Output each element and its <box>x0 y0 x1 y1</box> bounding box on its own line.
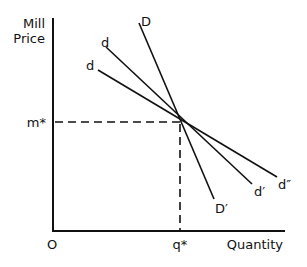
curve-d-upper <box>106 47 252 184</box>
curve-D <box>139 23 214 199</box>
x-axis-label: Quantity <box>227 237 283 252</box>
curve-d-upper-end-label: d′ <box>254 184 265 199</box>
curve-d-lower-start-label: d <box>86 58 94 73</box>
curve-D-end-label: D′ <box>215 201 228 216</box>
curve-d-lower-end-label: d″ <box>278 177 291 192</box>
curve-d-upper-start-label: d <box>101 35 109 50</box>
y-axis-label-line1: Mill <box>23 16 45 31</box>
demand-diagram: Mill Price Quantity O m* q* D D′ d d′ d … <box>0 0 307 267</box>
y-axis-label-line2: Price <box>13 31 45 46</box>
curve-D-start-label: D <box>141 14 151 29</box>
quantity-marker-label: q* <box>173 237 188 252</box>
curve-d-lower <box>98 70 277 177</box>
origin-label: O <box>47 237 57 252</box>
price-marker-label: m* <box>27 115 47 130</box>
